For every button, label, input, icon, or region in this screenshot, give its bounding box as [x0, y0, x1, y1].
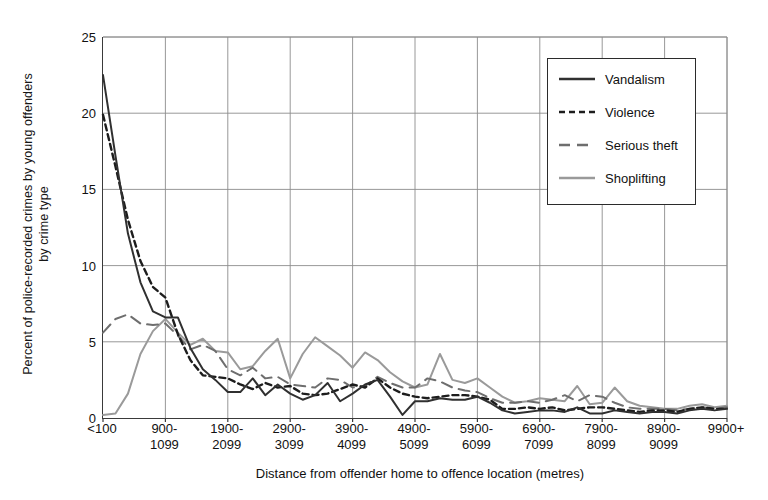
legend-swatch-icon: [558, 106, 596, 118]
chart-figure: Percent of police-recorded crimes by you…: [0, 0, 768, 500]
chart-legend: VandalismViolenceSerious theftShopliftin…: [547, 58, 696, 205]
y-tick-label: 15: [62, 182, 96, 197]
x-tick-label-line2: 9099: [621, 437, 707, 453]
legend-swatch-icon: [558, 73, 596, 85]
x-axis-ticks: <100900-10991900-20992900-30993900-40994…: [0, 421, 768, 465]
x-axis-title-text: Distance from offender home to offence l…: [256, 466, 584, 481]
y-axis-title-line1: Percent of police-recorded crimes by you…: [20, 73, 36, 375]
x-axis-title: Distance from offender home to offence l…: [0, 466, 768, 481]
y-tick-label: 25: [62, 30, 96, 45]
x-tick-label: 9900+: [683, 421, 768, 437]
x-tick-label-line1: 9900+: [683, 421, 768, 437]
legend-swatch-icon: [558, 139, 596, 151]
legend-item-shoplifting: Shoplifting: [558, 169, 666, 187]
legend-item-vandalism: Vandalism: [558, 70, 665, 88]
y-axis-title-line2: by crime type: [36, 186, 52, 262]
y-tick-label: 5: [62, 334, 96, 349]
legend-label: Serious theft: [605, 138, 678, 153]
y-tick-label: 10: [62, 258, 96, 273]
legend-item-violence: Violence: [558, 103, 655, 121]
y-axis-title: Percent of police-recorded crimes by you…: [14, 28, 58, 420]
legend-label: Shoplifting: [605, 171, 666, 186]
legend-label: Vandalism: [605, 72, 665, 87]
legend-item-serious-theft: Serious theft: [558, 136, 678, 154]
legend-label: Violence: [605, 105, 655, 120]
legend-swatch-icon: [558, 172, 596, 184]
y-tick-label: 20: [62, 106, 96, 121]
